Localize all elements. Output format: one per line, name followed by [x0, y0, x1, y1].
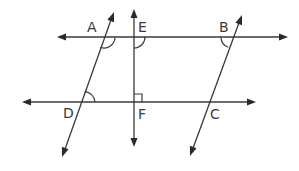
- arrow-up-icon: [107, 12, 114, 22]
- arrow-left-icon: [57, 34, 66, 41]
- angle-arc-b: [221, 37, 228, 47]
- arrow-up-icon: [131, 9, 138, 18]
- angle-arc-d: [85, 92, 95, 102]
- arrow-down-icon: [62, 147, 69, 157]
- arrow-up-icon: [235, 15, 242, 25]
- geometry-diagram: A E B D F C: [0, 0, 299, 171]
- point-label-c: C: [210, 106, 220, 122]
- bottom-horizontal-line: [22, 99, 256, 106]
- angle-arc-e: [134, 37, 145, 48]
- point-label-f: F: [138, 106, 146, 122]
- arrow-right-icon: [247, 99, 256, 106]
- transversal-line-bc: [190, 15, 242, 156]
- point-label-b: B: [219, 19, 229, 35]
- arrow-left-icon: [22, 99, 31, 106]
- point-label-a: A: [87, 19, 97, 35]
- right-angle-mark-f: [134, 94, 142, 102]
- point-label-e: E: [138, 19, 147, 35]
- arrow-down-icon: [131, 138, 138, 147]
- arrow-down-icon: [190, 146, 197, 156]
- diagram-canvas: A E B D F C: [0, 0, 299, 171]
- vertical-line-ef: [131, 9, 138, 147]
- arrow-right-icon: [279, 34, 288, 41]
- point-label-d: D: [63, 105, 74, 121]
